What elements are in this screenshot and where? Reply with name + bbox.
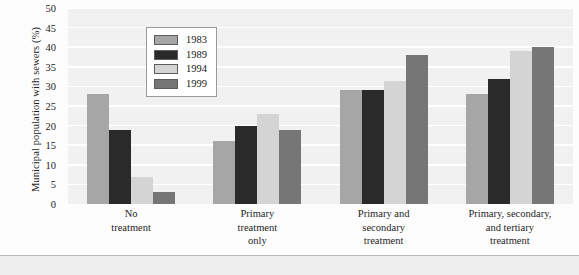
x-category-label-line: Primary: [194, 207, 320, 221]
x-category-label-line: Primary, secondary,: [447, 207, 573, 221]
bar: [153, 192, 175, 204]
bar: [109, 130, 131, 204]
x-category-label-line: Primary and: [321, 207, 447, 221]
legend-swatch: [154, 50, 178, 60]
bar: [279, 130, 301, 204]
x-category-label-line: treatment: [447, 234, 573, 248]
bottom-band: [0, 256, 579, 275]
bar-series-container: [68, 8, 573, 204]
y-tick-label: 35: [46, 61, 57, 72]
y-tick-label: 10: [46, 159, 57, 170]
x-category-label: Notreatment: [68, 207, 194, 234]
y-tick-label: 30: [46, 81, 57, 92]
bar-group: [213, 8, 301, 204]
bar: [406, 55, 428, 204]
bar: [510, 51, 532, 204]
x-category-label-line: and tertiary: [447, 221, 573, 235]
x-category-label-line: secondary: [321, 221, 447, 235]
y-tick-label: 40: [46, 42, 57, 53]
bar: [488, 79, 510, 204]
y-tick-label: 5: [51, 179, 56, 190]
bar-group: [466, 8, 554, 204]
bar: [340, 90, 362, 204]
bar: [466, 94, 488, 204]
x-category-label: Primarytreatmentonly: [194, 207, 320, 248]
legend-label: 1983: [186, 35, 207, 46]
bar: [532, 47, 554, 204]
legend-swatch: [154, 79, 178, 89]
legend-swatch: [154, 35, 178, 45]
legend-item: 1983: [154, 33, 207, 48]
y-axis-ticks: 50454035302520151050: [0, 8, 64, 204]
bar: [362, 90, 384, 204]
y-tick-label: 50: [46, 3, 57, 14]
y-tick-label: 20: [46, 120, 57, 131]
x-category-label: Primary andsecondarytreatment: [321, 207, 447, 248]
x-category-label-line: treatment: [321, 234, 447, 248]
legend-item: 1994: [154, 62, 207, 77]
x-category-label-line: treatment: [194, 221, 320, 235]
chart-legend: 1983198919941999: [146, 27, 217, 97]
plot-area: [68, 8, 573, 204]
legend-label: 1994: [186, 64, 207, 75]
legend-swatch: [154, 64, 178, 74]
bar: [235, 126, 257, 204]
legend-item: 1999: [154, 77, 207, 92]
bar: [384, 81, 406, 204]
legend-item: 1989: [154, 48, 207, 63]
legend-label: 1999: [186, 79, 207, 90]
x-category-label-line: only: [194, 234, 320, 248]
bar: [213, 141, 235, 204]
legend-label: 1989: [186, 50, 207, 61]
x-category-label: Primary, secondary,and tertiarytreatment: [447, 207, 573, 248]
y-tick-label: 45: [46, 22, 57, 33]
x-axis-category-labels: NotreatmentPrimarytreatmentonlyPrimary a…: [68, 207, 573, 255]
bar: [257, 114, 279, 204]
x-category-label-line: No: [68, 207, 194, 221]
x-category-label-line: treatment: [68, 221, 194, 235]
y-tick-label: 25: [46, 101, 57, 112]
bar-group: [340, 8, 428, 204]
bar: [131, 177, 153, 204]
y-tick-label: 0: [51, 199, 56, 210]
y-tick-label: 15: [46, 140, 57, 151]
chart-figure: Municipal population with sewers (%) 504…: [0, 0, 579, 275]
bar: [87, 94, 109, 204]
